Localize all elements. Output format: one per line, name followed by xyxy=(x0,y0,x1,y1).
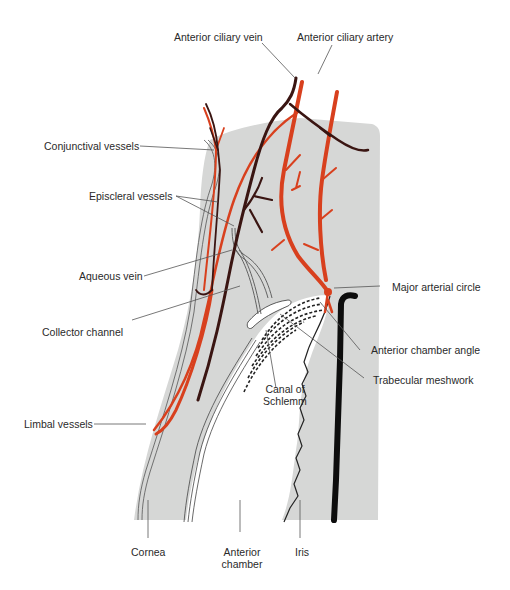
label-collector-channel: Collector channel xyxy=(42,326,123,338)
label-anterior-chamber-angle: Anterior chamber angle xyxy=(371,344,480,356)
label-anterior-chamber-line1: Anterior xyxy=(215,546,269,558)
label-iris: Iris xyxy=(295,546,309,558)
label-anterior-chamber-line2: chamber xyxy=(215,558,269,570)
label-anterior-ciliary-artery: Anterior ciliary artery xyxy=(297,31,393,43)
label-canal-of-schlemm-line2: Schlemm xyxy=(258,395,312,407)
label-cornea: Cornea xyxy=(131,546,165,558)
label-episcleral-vessels: Episcleral vessels xyxy=(89,190,172,202)
eye-anterior-segment-diagram xyxy=(0,0,510,590)
label-anterior-chamber: Anterior chamber xyxy=(215,546,269,570)
label-canal-of-schlemm-line1: Canal of xyxy=(258,383,312,395)
label-canal-of-schlemm: Canal of Schlemm xyxy=(258,383,312,407)
label-limbal-vessels: Limbal vessels xyxy=(24,418,93,430)
label-anterior-ciliary-vein: Anterior ciliary vein xyxy=(174,31,263,43)
label-trabecular-meshwork: Trabecular meshwork xyxy=(373,374,474,386)
label-conjunctival-vessels: Conjunctival vessels xyxy=(44,140,139,152)
label-aqueous-vein: Aqueous vein xyxy=(79,270,143,282)
label-major-arterial-circle: Major arterial circle xyxy=(392,281,481,293)
